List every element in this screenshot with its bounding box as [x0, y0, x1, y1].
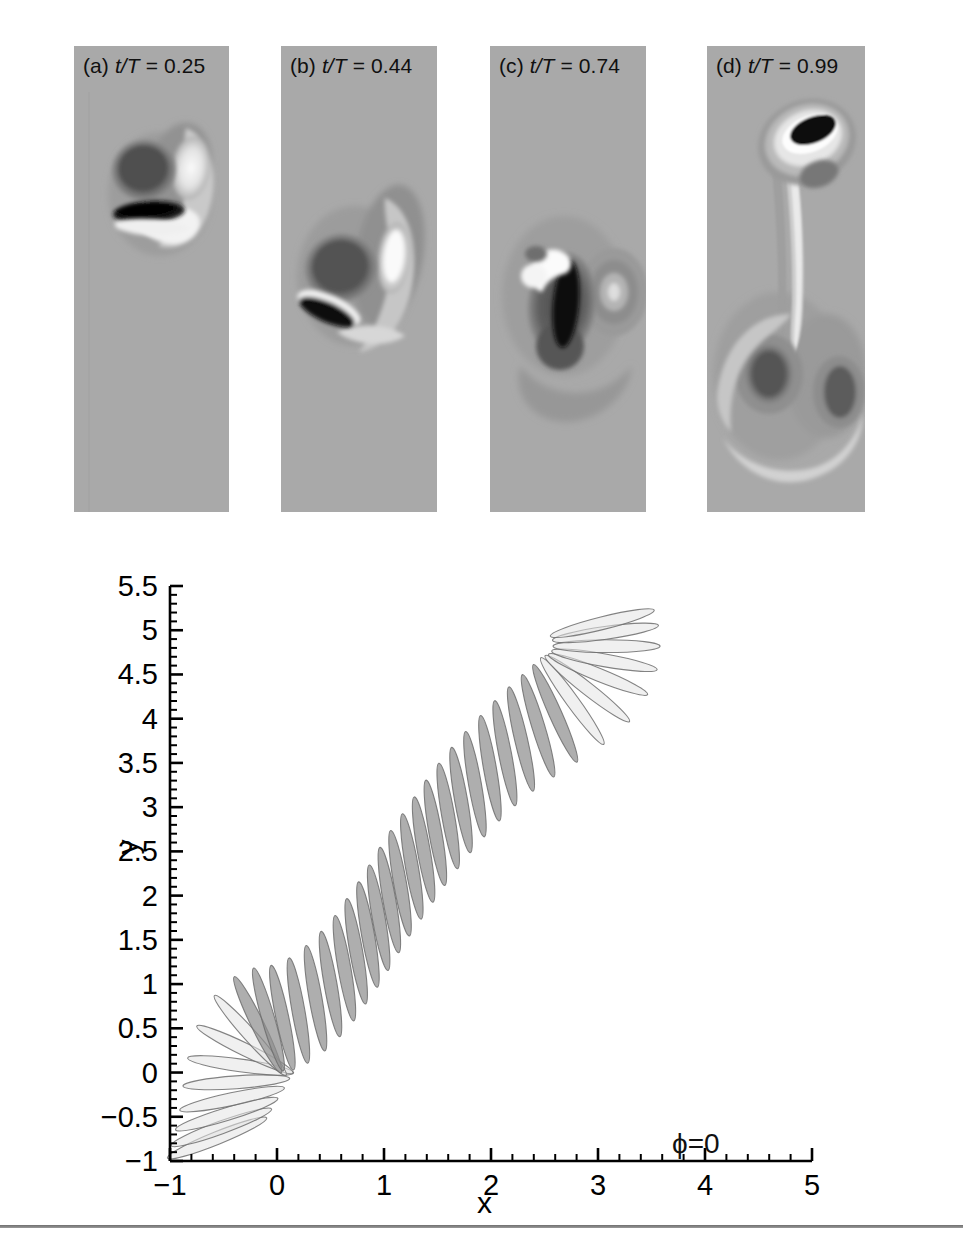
x-tick-label: 1 [376, 1169, 392, 1201]
x-tick-label: 0 [269, 1169, 285, 1201]
vorticity-panel-b: (b) t/T = 0.44 [281, 46, 437, 512]
vorticity-field-c [490, 46, 646, 512]
panel-label-b: (b) t/T = 0.44 [290, 54, 412, 78]
y-tick-label: −1 [125, 1145, 158, 1177]
vorticity-field-a [74, 46, 229, 512]
vorticity-panel-row: (a) t/T = 0.25 [0, 0, 963, 520]
panel-label-a: (a) t/T = 0.25 [83, 54, 205, 78]
panel-quantity-d: t/T [748, 54, 773, 77]
y-tick-label: 5.5 [118, 570, 158, 602]
panel-tag-d: (d) [716, 54, 742, 77]
x-axis-title: x [477, 1186, 492, 1220]
panel-quantity-a: t/T [115, 54, 140, 77]
vorticity-field-b [281, 46, 437, 512]
panel-tag-c: (c) [499, 54, 524, 77]
x-tick-label: −1 [153, 1169, 186, 1201]
plot-canvas: −1012345−1−0.500.511.522.533.544.555.5 [0, 520, 963, 1220]
y-tick-label: 5 [142, 614, 158, 646]
vorticity-panel-c: (c) t/T = 0.74 [490, 46, 646, 512]
panel-quantity-b: t/T [322, 54, 347, 77]
y-tick-label: −0.5 [101, 1101, 158, 1133]
wing-kinematics-plot: −1012345−1−0.500.511.522.533.544.555.5 ϕ… [0, 520, 963, 1220]
panel-value-a: 0.25 [164, 54, 205, 77]
y-tick-label: 1 [142, 968, 158, 1000]
y-tick-label: 3.5 [118, 747, 158, 779]
x-tick-label: 3 [590, 1169, 606, 1201]
phi-annotation: ϕ=0 [672, 1128, 720, 1160]
footer-rule [0, 1225, 963, 1228]
wing-section-group [165, 604, 660, 1164]
vorticity-panel-a: (a) t/T = 0.25 [74, 46, 229, 512]
x-tick-label: 4 [697, 1169, 713, 1201]
y-tick-label: 0 [142, 1057, 158, 1089]
y-tick-label: 4.5 [118, 658, 158, 690]
y-tick-label: 0.5 [118, 1012, 158, 1044]
y-tick-label: 4 [142, 703, 158, 735]
panel-equals-a: = [146, 54, 158, 77]
figure-root: (a) t/T = 0.25 [0, 0, 963, 1238]
panel-equals-c: = [560, 54, 572, 77]
vorticity-panel-d: (d) t/T = 0.99 [707, 46, 865, 512]
panel-value-d: 0.99 [797, 54, 838, 77]
panel-tag-b: (b) [290, 54, 316, 77]
panel-equals-b: = [353, 54, 365, 77]
y-tick-label: 2 [142, 880, 158, 912]
panel-value-c: 0.74 [579, 54, 620, 77]
y-tick-label: 3 [142, 791, 158, 823]
x-tick-label: 5 [804, 1169, 820, 1201]
y-axis-title: y [111, 840, 145, 855]
panel-value-b: 0.44 [371, 54, 412, 77]
panel-label-c: (c) t/T = 0.74 [499, 54, 620, 78]
panel-label-d: (d) t/T = 0.99 [716, 54, 838, 78]
vorticity-field-d [707, 46, 865, 512]
panel-quantity-c: t/T [530, 54, 555, 77]
panel-tag-a: (a) [83, 54, 109, 77]
panel-equals-d: = [779, 54, 791, 77]
y-tick-label: 1.5 [118, 924, 158, 956]
